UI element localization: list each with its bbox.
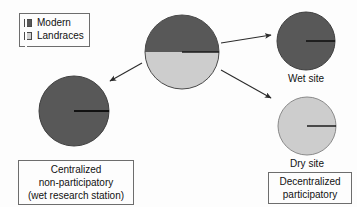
centralized-label-box: Centralized non-participatory (wet resea… — [18, 160, 134, 205]
arrow-source-to-centralized — [110, 63, 142, 81]
decentralized-label-box: Decentralized participatory — [268, 172, 352, 204]
centralized-label-line-1: Centralized — [23, 163, 129, 176]
centralized-label-line-2: non-participatory — [23, 176, 129, 189]
diagram-canvas: Modern Landraces Centralized non- — [0, 0, 357, 207]
dry-site-pie — [277, 96, 337, 156]
wet-site-label: Wet site — [276, 73, 336, 85]
arrow-source-to-dry-site — [221, 70, 271, 98]
legend: Modern Landraces — [19, 13, 90, 47]
legend-swatch-modern-icon — [24, 19, 32, 27]
legend-label-landraces: Landraces — [37, 30, 84, 42]
legend-item-landraces: Landraces — [24, 30, 84, 42]
centralized-label-line-3: (wet research station) — [23, 189, 129, 202]
dry-site-label: Dry site — [277, 158, 337, 170]
centralized-pie — [38, 75, 110, 147]
decentralized-label-line-2: participatory — [273, 188, 347, 201]
source-pie — [143, 13, 221, 91]
arrow-source-to-wet-site — [221, 35, 271, 43]
legend-label-modern: Modern — [37, 17, 71, 29]
legend-swatch-landraces-icon — [24, 32, 32, 40]
wet-site-pie — [276, 11, 336, 71]
decentralized-label-line-1: Decentralized — [273, 175, 347, 188]
legend-item-modern: Modern — [24, 17, 84, 29]
